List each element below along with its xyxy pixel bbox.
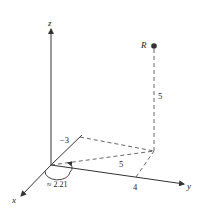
neg-x-tick-label: −3	[60, 135, 69, 145]
dashed-line-y4-to-corner	[136, 151, 154, 177]
x-axis-label: x	[11, 195, 16, 205]
angle-label: ≈ 2.21	[47, 180, 67, 189]
height-label: 5	[158, 91, 162, 101]
dashed-line-negx-to-corner	[80, 137, 154, 151]
dashed-line-origin-to-corner	[51, 151, 154, 165]
angle-arc	[45, 163, 72, 180]
point-R-label: R	[140, 40, 147, 50]
y-tick-label: 4	[133, 182, 138, 192]
point-R	[151, 43, 157, 49]
y-axis	[51, 165, 184, 184]
radial-distance-label: 5	[119, 159, 123, 169]
z-axis-label: z	[47, 18, 52, 28]
y-axis-label: y	[186, 181, 191, 191]
3d-coordinate-diagram: z y x R −3 4 5 5 ≈ 2.21	[0, 0, 203, 212]
